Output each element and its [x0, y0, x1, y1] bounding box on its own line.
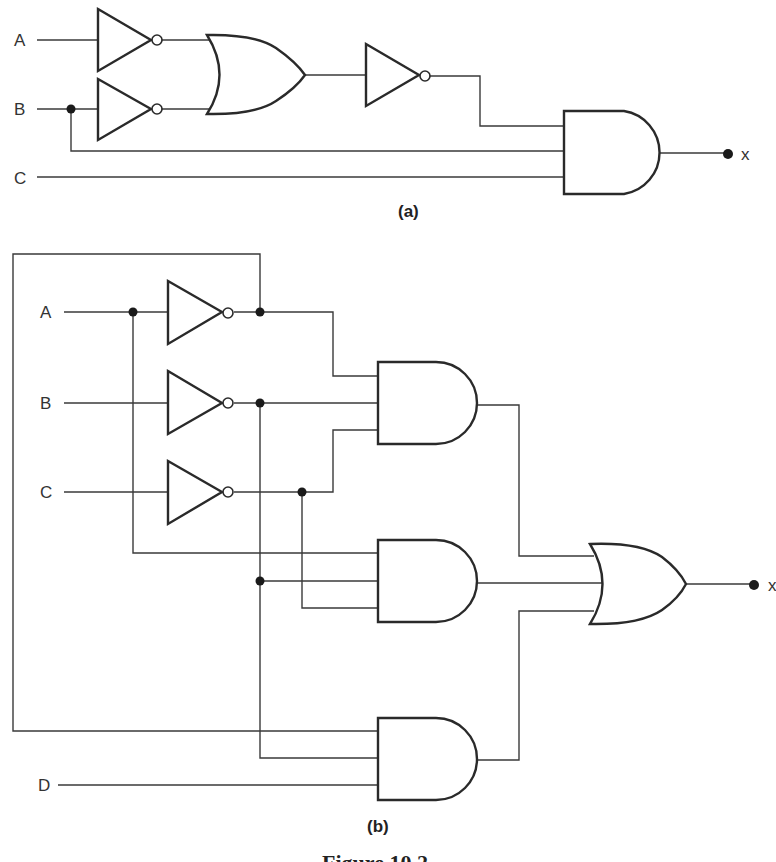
circuit-a: A B C	[14, 9, 750, 221]
not-gate-or-output	[366, 44, 430, 106]
input-label-d: D	[38, 776, 50, 795]
junction-dot	[67, 105, 76, 114]
junction-dot	[129, 308, 138, 317]
inversion-bubble	[420, 71, 430, 81]
wire-and1-to-or	[475, 405, 594, 556]
output-label-x: x	[741, 145, 750, 164]
inversion-bubble	[223, 487, 233, 497]
input-label-b: B	[14, 100, 25, 119]
and-gate-1	[378, 362, 477, 444]
output-label-x: x	[768, 576, 776, 595]
input-label-c: C	[14, 169, 26, 188]
not-gate-c	[168, 461, 233, 524]
output-terminal-dot	[723, 149, 733, 159]
wire-nota-to-and1	[234, 312, 378, 376]
and-gate	[564, 111, 660, 194]
not-triangle	[98, 79, 151, 140]
junction-dot	[256, 399, 265, 408]
logic-diagram: A B C	[0, 0, 776, 862]
wire-b-branch-to-and	[71, 109, 564, 151]
junction-dot	[256, 308, 265, 317]
inversion-bubble	[223, 308, 233, 318]
and-gate-3	[378, 718, 477, 800]
not-triangle	[98, 9, 151, 71]
subfigure-label-b: (b)	[367, 817, 389, 836]
wire-not-to-and	[426, 76, 564, 126]
inversion-bubble	[152, 35, 162, 45]
input-label-c: C	[40, 483, 52, 502]
circuit-b: A B C D	[13, 254, 776, 836]
or-gate	[590, 544, 686, 624]
not-triangle	[168, 461, 222, 524]
input-label-b: B	[40, 394, 51, 413]
inversion-bubble	[223, 398, 233, 408]
junction-dot	[256, 577, 265, 586]
figure-caption: Figure 10.2	[322, 850, 428, 862]
not-gate-b	[168, 371, 233, 434]
not-triangle	[168, 371, 222, 434]
subfigure-label-a: (a)	[398, 202, 419, 221]
input-label-a: A	[40, 303, 52, 322]
inversion-bubble	[152, 104, 162, 114]
or-gate	[207, 35, 305, 114]
wire-notc-branch-to-and2	[302, 492, 378, 608]
not-triangle	[168, 281, 222, 344]
not-gate-a	[98, 9, 162, 71]
wire-and3-to-or	[475, 611, 594, 760]
wire-notc-to-and1	[234, 430, 378, 492]
junction-dot	[298, 488, 307, 497]
not-triangle	[366, 44, 419, 106]
and-gate-2	[378, 540, 477, 622]
not-gate-b	[98, 79, 162, 140]
not-gate-a	[168, 281, 233, 344]
output-terminal-dot	[749, 580, 759, 590]
circuit-b-wires	[13, 254, 753, 785]
input-label-a: A	[14, 31, 26, 50]
